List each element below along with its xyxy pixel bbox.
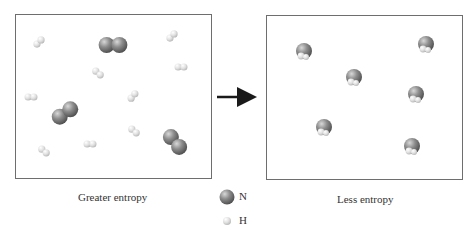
nh3-molecule-icon — [418, 36, 434, 53]
h2-molecule-icon — [84, 140, 97, 147]
h2-molecule-icon — [25, 93, 38, 100]
greater-entropy-label: Greater entropy — [78, 191, 147, 203]
h2-molecule-icon — [38, 146, 50, 157]
h2-molecule-icon — [128, 90, 139, 102]
nitrogen-molecules — [52, 37, 187, 155]
nh3-molecule-icon — [346, 69, 362, 86]
nh3-molecule-icon — [296, 43, 312, 60]
nh3-molecule-icon — [404, 138, 420, 155]
n2-molecule-icon — [52, 101, 78, 124]
legend-n-icon — [220, 190, 235, 205]
nh3-molecule-icon — [316, 119, 332, 136]
legend-h-label: H — [239, 214, 247, 226]
h2-molecule-icon — [166, 30, 177, 41]
n2-molecule-icon — [99, 37, 128, 53]
n2-molecule-icon — [163, 129, 187, 155]
h2-molecule-icon — [128, 126, 140, 137]
molecule-diagram — [0, 0, 474, 236]
legend-n-label: N — [239, 190, 247, 202]
h2-molecule-icon — [33, 36, 44, 47]
nh3-molecule-icon — [408, 86, 424, 103]
h2-molecule-icon — [175, 63, 188, 70]
less-entropy-label: Less entropy — [337, 193, 394, 205]
h2-molecule-icon — [92, 68, 104, 79]
ammonia-molecules — [296, 36, 434, 155]
legend-h-icon — [223, 217, 231, 225]
